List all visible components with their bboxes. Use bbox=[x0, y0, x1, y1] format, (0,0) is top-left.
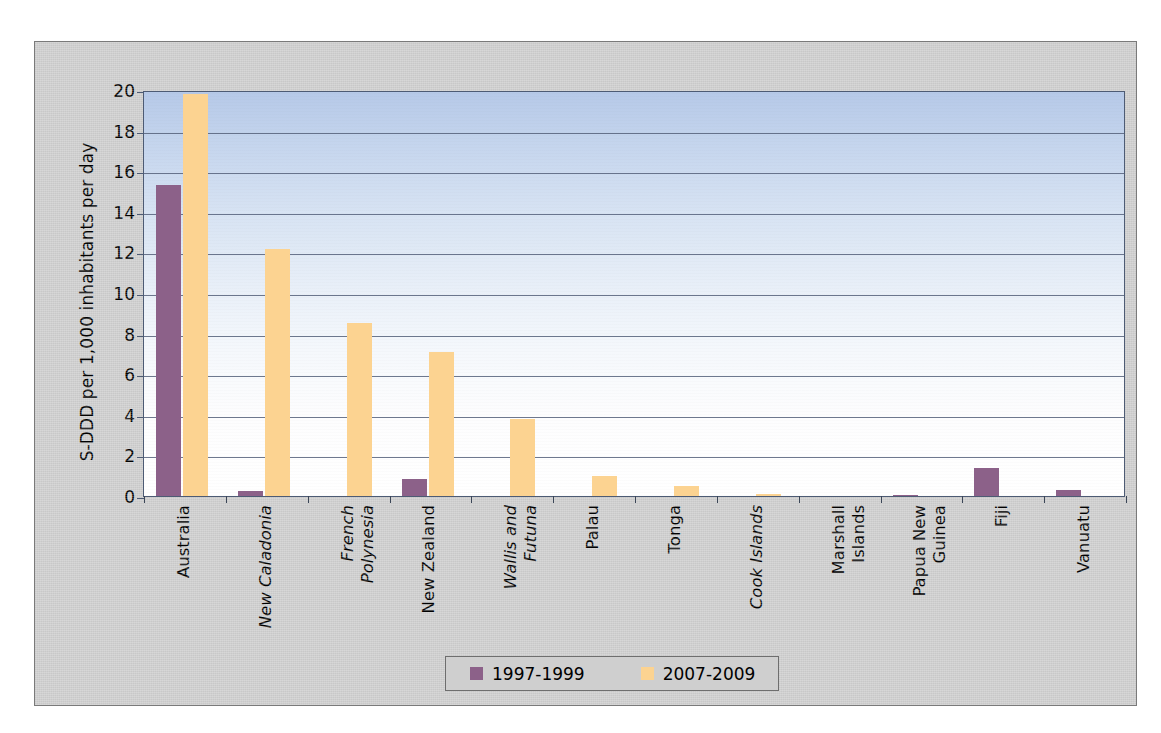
y-axis-tick bbox=[137, 133, 144, 134]
y-axis-tick bbox=[137, 376, 144, 377]
x-axis-category-label: Wallis andFutuna bbox=[501, 505, 541, 655]
x-axis-category-labels: AustraliaNew CaladoniaFrenchPolynesiaNew… bbox=[143, 505, 1125, 655]
bar[interactable] bbox=[1056, 490, 1081, 496]
legend-item-label: 2007-2009 bbox=[663, 664, 756, 684]
bar[interactable] bbox=[510, 419, 535, 496]
x-axis-tick bbox=[471, 496, 472, 503]
x-axis-category-label-line: French bbox=[338, 505, 358, 655]
bar-group bbox=[799, 92, 881, 496]
x-axis-category-label: Fiji bbox=[992, 505, 1012, 655]
bar-group bbox=[553, 92, 635, 496]
y-axis-tick-label: 12 bbox=[75, 243, 135, 263]
x-axis-category-label: FrenchPolynesia bbox=[338, 505, 378, 655]
x-axis-category-label-line: Futuna bbox=[521, 505, 541, 655]
y-axis-tick-label: 4 bbox=[75, 406, 135, 426]
y-axis-tick-label: 8 bbox=[75, 325, 135, 345]
x-axis-category-label-line: Guinea bbox=[930, 505, 950, 655]
x-axis-category-label: MarshallIslands bbox=[829, 505, 869, 655]
bar[interactable] bbox=[756, 494, 781, 496]
bar-group bbox=[390, 92, 472, 496]
legend-item[interactable]: 2007-2009 bbox=[641, 664, 756, 684]
x-axis-tick bbox=[1126, 496, 1127, 503]
y-axis-tick-label: 18 bbox=[75, 122, 135, 142]
bar[interactable] bbox=[974, 468, 999, 496]
y-axis-tick bbox=[137, 295, 144, 296]
y-axis-tick-label: 6 bbox=[75, 365, 135, 385]
bar-group bbox=[226, 92, 308, 496]
y-axis-tick-label: 14 bbox=[75, 203, 135, 223]
bar-group bbox=[471, 92, 553, 496]
y-axis-tick bbox=[137, 214, 144, 215]
legend-item-label: 1997-1999 bbox=[492, 664, 585, 684]
bar[interactable] bbox=[674, 486, 699, 496]
chart-page: S-DDD per 1,000 inhabitants per day 0246… bbox=[0, 0, 1161, 733]
bars-layer bbox=[144, 92, 1124, 496]
bar-group bbox=[717, 92, 799, 496]
x-axis-tick bbox=[390, 496, 391, 503]
x-axis-category-label: Australia bbox=[174, 505, 194, 655]
x-axis-category-label-line: Wallis and bbox=[501, 505, 521, 655]
y-axis-tick bbox=[137, 498, 144, 499]
x-axis-category-label: New Zealand bbox=[419, 505, 439, 655]
x-axis-tick bbox=[553, 496, 554, 503]
x-axis-tick bbox=[635, 496, 636, 503]
x-axis-category-label-line: Palau bbox=[583, 505, 603, 655]
y-axis-tick-label: 2 bbox=[75, 446, 135, 466]
bar-group bbox=[1044, 92, 1126, 496]
x-axis-tick bbox=[799, 496, 800, 503]
y-axis-tick bbox=[137, 336, 144, 337]
bar[interactable] bbox=[893, 495, 918, 496]
bar[interactable] bbox=[156, 185, 181, 496]
bar-group bbox=[962, 92, 1044, 496]
x-axis-category-label-line: New Caladonia bbox=[256, 505, 276, 655]
x-axis-category-label: Palau bbox=[583, 505, 603, 655]
x-axis-tick bbox=[962, 496, 963, 503]
legend-item[interactable]: 1997-1999 bbox=[470, 664, 585, 684]
x-axis-category-label: Vanuatu bbox=[1074, 505, 1094, 655]
x-axis-category-label-line: New Zealand bbox=[419, 505, 439, 655]
x-axis-category-label-line: Papua New bbox=[910, 505, 930, 655]
y-axis-tick bbox=[137, 254, 144, 255]
y-axis-tick-labels: 02468101214161820 bbox=[73, 91, 135, 497]
x-axis-category-label-line: Islands bbox=[849, 505, 869, 655]
x-axis-category-label-line: Polynesia bbox=[358, 505, 378, 655]
y-axis-tick-label: 0 bbox=[75, 487, 135, 507]
x-axis-category-label-line: Australia bbox=[174, 505, 194, 655]
bar[interactable] bbox=[429, 352, 454, 496]
x-axis-category-label-line: Fiji bbox=[992, 505, 1012, 655]
bar[interactable] bbox=[183, 94, 208, 496]
x-axis-category-label-line: Marshall bbox=[829, 505, 849, 655]
x-axis-category-label-line: Vanuatu bbox=[1074, 505, 1094, 655]
x-axis-category-label-line: Cook Islands bbox=[747, 505, 767, 655]
x-axis-tick bbox=[226, 496, 227, 503]
bar[interactable] bbox=[592, 476, 617, 496]
x-axis-category-label: Papua NewGuinea bbox=[910, 505, 950, 655]
x-axis-category-label-line: Tonga bbox=[665, 505, 685, 655]
y-axis-tick bbox=[137, 457, 144, 458]
chart-legend: 1997-1999 2007-2009 bbox=[445, 656, 779, 691]
y-axis-tick-label: 10 bbox=[75, 284, 135, 304]
x-axis-category-label: New Caladonia bbox=[256, 505, 276, 655]
x-axis-tick bbox=[308, 496, 309, 503]
bar-group bbox=[308, 92, 390, 496]
legend-swatch-icon bbox=[641, 667, 654, 680]
y-axis-tick-label: 20 bbox=[75, 81, 135, 101]
x-axis-tick bbox=[717, 496, 718, 503]
x-axis-category-label: Tonga bbox=[665, 505, 685, 655]
y-axis-tick bbox=[137, 417, 144, 418]
plot-area bbox=[143, 91, 1125, 497]
bar-group bbox=[144, 92, 226, 496]
y-axis-tick bbox=[137, 173, 144, 174]
x-axis-tick bbox=[1044, 496, 1045, 503]
bar-group bbox=[881, 92, 963, 496]
bar[interactable] bbox=[265, 249, 290, 496]
chart-frame: S-DDD per 1,000 inhabitants per day 0246… bbox=[34, 41, 1137, 706]
x-axis-tick bbox=[881, 496, 882, 503]
bar[interactable] bbox=[402, 479, 427, 496]
x-axis-category-label: Cook Islands bbox=[747, 505, 767, 655]
bar-group bbox=[635, 92, 717, 496]
bar[interactable] bbox=[347, 323, 372, 496]
bar[interactable] bbox=[238, 491, 263, 496]
x-axis-tick bbox=[144, 496, 145, 503]
y-axis-tick-label: 16 bbox=[75, 162, 135, 182]
